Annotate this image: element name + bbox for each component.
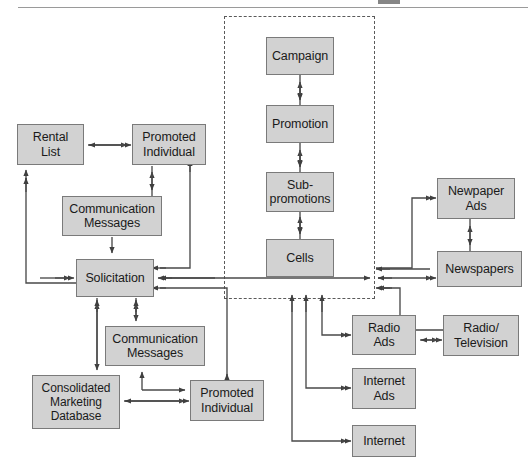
node-solicitation: Solicitation — [76, 259, 154, 297]
node-label-internet-ads: InternetAds — [355, 374, 413, 403]
diagram-canvas: RentalListPromotedIndividualCommunicatio… — [0, 0, 528, 473]
node-internet: Internet — [352, 425, 416, 457]
node-label-newspaper-ads: NewpaperAds — [440, 184, 512, 213]
node-label-promoted-individual-top: PromotedIndividual — [135, 130, 203, 159]
node-communication-messages-bottom: CommunicationMessages — [105, 326, 205, 366]
connector-group-to-newspaperads — [376, 198, 432, 268]
node-promoted-individual-bottom: PromotedIndividual — [190, 380, 264, 421]
node-label-cells: Cells — [269, 251, 331, 266]
node-campaign: Campaign — [266, 37, 334, 75]
node-promotion: Promotion — [266, 105, 334, 143]
node-label-internet: Internet — [355, 434, 413, 449]
node-communication-messages-top: CommunicationMessages — [62, 196, 162, 236]
node-label-campaign: Campaign — [269, 49, 331, 64]
node-label-radio-television: Radio/Television — [446, 321, 516, 350]
node-promoted-individual-top: PromotedIndividual — [132, 124, 206, 165]
node-cells: Cells — [266, 239, 334, 277]
node-label-communication-messages-top: CommunicationMessages — [65, 202, 159, 231]
connector-group-to-radioads — [322, 299, 347, 335]
node-rental-list: RentalList — [17, 124, 84, 165]
node-label-rental-list: RentalList — [20, 130, 81, 159]
node-label-communication-messages-bottom: CommunicationMessages — [108, 332, 202, 361]
node-newspapers: Newspapers — [437, 251, 522, 287]
node-label-promoted-individual-bottom: PromotedIndividual — [193, 386, 261, 415]
node-internet-ads: InternetAds — [352, 368, 416, 409]
node-radio-ads: RadioAds — [352, 315, 416, 355]
node-label-newspapers: Newspapers — [440, 262, 519, 277]
node-label-solicitation: Solicitation — [79, 271, 151, 286]
node-label-sub-promotions: Sub-promotions — [269, 178, 331, 207]
node-label-radio-ads: RadioAds — [355, 321, 413, 350]
node-label-promotion: Promotion — [269, 117, 331, 132]
node-newspaper-ads: NewpaperAds — [437, 178, 515, 219]
node-radio-television: Radio/Television — [443, 315, 519, 356]
node-consolidated-marketing-database: ConsolidatedMarketingDatabase — [32, 375, 120, 429]
node-label-consolidated-marketing-database: ConsolidatedMarketingDatabase — [35, 381, 117, 423]
connector-promotedtop-to-solicitation-path — [160, 166, 190, 268]
connector-group-to-internetads — [306, 299, 347, 388]
node-sub-promotions: Sub-promotions — [266, 172, 334, 212]
connector-group-to-internet — [292, 299, 347, 441]
